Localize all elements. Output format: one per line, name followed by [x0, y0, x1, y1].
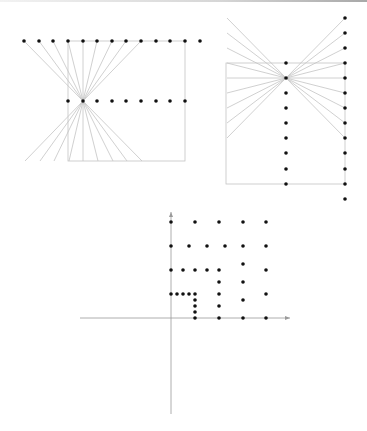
- lattice-point: [187, 244, 191, 248]
- lattice-point: [284, 182, 288, 186]
- lattice-point: [22, 39, 26, 43]
- lattice-point: [183, 99, 187, 103]
- lattice-point: [343, 106, 347, 110]
- lattice-point: [110, 39, 114, 43]
- lattice-point: [241, 298, 245, 302]
- lattice-point: [51, 39, 55, 43]
- lattice-point: [284, 91, 288, 95]
- lattice-point: [169, 220, 173, 224]
- lattice-point: [217, 316, 221, 320]
- lattice-point: [217, 220, 221, 224]
- lattice-point: [241, 280, 245, 284]
- lattice-point: [124, 99, 128, 103]
- lattice-point: [193, 220, 197, 224]
- lattice-point: [264, 268, 268, 272]
- lattice-point: [264, 220, 268, 224]
- lattice-point: [284, 121, 288, 125]
- lattice-point: [264, 316, 268, 320]
- lattice-point: [37, 39, 41, 43]
- lattice-point: [181, 268, 185, 272]
- lattice-point: [168, 99, 172, 103]
- lattice-point: [95, 39, 99, 43]
- lattice-point: [343, 151, 347, 155]
- figure-fan-vertical: [226, 16, 347, 201]
- lattice-point: [217, 268, 221, 272]
- lattice-point: [193, 298, 197, 302]
- lattice-point: [66, 39, 70, 43]
- lattice-point: [343, 197, 347, 201]
- lattice-point: [205, 268, 209, 272]
- lattice-point: [187, 292, 191, 296]
- lattice-point: [169, 268, 173, 272]
- lattice-point: [217, 280, 221, 284]
- lattice-point: [217, 292, 221, 296]
- lattice-point: [241, 316, 245, 320]
- y-axis-arrowhead-icon: [169, 212, 173, 217]
- lattice-point: [139, 99, 143, 103]
- lattice-point: [81, 99, 85, 103]
- x-axis-arrowhead-icon: [285, 316, 290, 320]
- lattice-point: [154, 39, 158, 43]
- lattice-point: [343, 136, 347, 140]
- lattice-point: [284, 136, 288, 140]
- lattice-point: [284, 76, 288, 80]
- figure-fan-horizontal: [22, 39, 202, 161]
- lattice-point: [343, 61, 347, 65]
- lattice-point: [223, 244, 227, 248]
- lattice-point: [183, 39, 187, 43]
- lattice-point: [168, 39, 172, 43]
- diagram-canvas: [0, 0, 367, 431]
- lattice-point: [264, 244, 268, 248]
- lattice-point: [169, 244, 173, 248]
- lattice-point: [198, 39, 202, 43]
- figure-lattice-axes: [80, 212, 290, 414]
- lattice-point: [343, 76, 347, 80]
- lattice-point: [193, 292, 197, 296]
- lattice-point: [217, 304, 221, 308]
- lattice-point: [343, 31, 347, 35]
- lattice-point: [241, 262, 245, 266]
- lattice-point: [169, 292, 173, 296]
- lattice-point: [343, 167, 347, 171]
- lattice-point: [343, 121, 347, 125]
- lattice-point: [95, 99, 99, 103]
- lattice-point: [284, 106, 288, 110]
- lattice-point: [343, 46, 347, 50]
- lattice-point: [154, 99, 158, 103]
- lattice-point: [264, 292, 268, 296]
- lattice-point: [193, 268, 197, 272]
- lattice-point: [284, 61, 288, 65]
- lattice-point: [193, 310, 197, 314]
- lattice-point: [181, 292, 185, 296]
- lattice-point: [139, 39, 143, 43]
- lattice-point: [241, 244, 245, 248]
- lattice-point: [343, 91, 347, 95]
- lattice-point: [66, 99, 70, 103]
- lattice-point: [193, 304, 197, 308]
- lattice-point: [343, 16, 347, 20]
- lattice-point: [193, 316, 197, 320]
- lattice-point: [205, 244, 209, 248]
- lattice-point: [124, 39, 128, 43]
- lattice-point: [284, 167, 288, 171]
- lattice-point: [81, 39, 85, 43]
- lattice-point: [241, 220, 245, 224]
- lattice-point: [343, 182, 347, 186]
- lattice-point: [175, 292, 179, 296]
- lattice-point: [284, 151, 288, 155]
- lattice-point: [110, 99, 114, 103]
